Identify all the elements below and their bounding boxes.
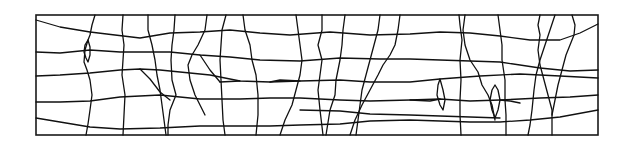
vertical-crack-2 [122, 15, 125, 135]
horizontal-crack-3 [36, 95, 598, 102]
vertical-crack-3 [148, 15, 166, 135]
crack-pattern-diagram [0, 0, 630, 145]
vertical-crack-20 [437, 79, 445, 110]
diagram-svg [0, 0, 630, 145]
horizontal-crack-6 [200, 55, 220, 82]
vertical-crack-19 [490, 85, 500, 118]
horizontal-crack-0 [36, 20, 598, 40]
horizontal-crack-10 [500, 100, 520, 103]
vertical-crack-11 [356, 15, 380, 135]
vertical-crack-12 [350, 15, 400, 135]
vertical-crack-8 [280, 15, 302, 135]
horizontal-crack-1 [36, 50, 598, 71]
vertical-crack-18 [552, 15, 575, 115]
horizontal-crack-7 [220, 81, 240, 82]
horizontal-cracks [36, 20, 598, 129]
horizontal-crack-2 [36, 69, 598, 82]
horizontal-crack-4 [36, 110, 598, 129]
vertical-crack-5 [188, 15, 207, 115]
vertical-crack-6 [220, 15, 226, 135]
